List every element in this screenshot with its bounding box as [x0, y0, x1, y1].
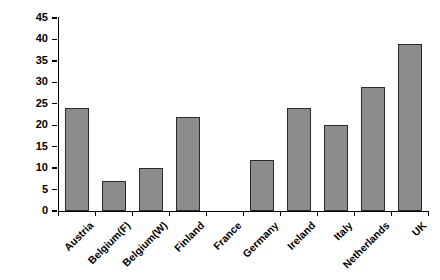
y-tick-label: 25: [0, 97, 48, 110]
y-tick-label: 0: [0, 204, 48, 217]
x-tick-mark: [317, 211, 318, 216]
x-tick-label: Ireland: [284, 219, 317, 252]
y-tick-label: 40: [0, 32, 48, 45]
x-tick-label: Austria: [61, 219, 95, 253]
bar: [139, 168, 163, 211]
y-tick-mark: [52, 189, 57, 190]
bar: [102, 181, 126, 211]
y-tick-mark: [52, 103, 57, 104]
y-tick-label: 10: [0, 161, 48, 174]
x-tick-mark: [391, 211, 392, 216]
y-tick-mark: [52, 39, 57, 40]
y-tick-mark: [52, 125, 57, 126]
bar: [176, 117, 200, 211]
y-tick-mark: [52, 60, 57, 61]
y-tick-label: 20: [0, 118, 48, 131]
x-tick-mark: [58, 211, 59, 216]
y-tick-mark: [52, 146, 57, 147]
x-tick-mark: [428, 211, 429, 216]
x-tick-mark: [132, 211, 133, 216]
y-tick-mark: [52, 210, 57, 211]
x-tick-mark: [169, 211, 170, 216]
bar: [398, 44, 422, 211]
y-tick-label: 30: [0, 75, 48, 88]
x-tick-mark: [95, 211, 96, 216]
x-tick-mark: [206, 211, 207, 216]
y-tick-label: 15: [0, 140, 48, 153]
x-tick-mark: [243, 211, 244, 216]
bar: [250, 160, 274, 211]
y-tick-mark: [52, 82, 57, 83]
x-tick-label: France: [210, 219, 243, 252]
x-tick-mark: [354, 211, 355, 216]
bar: [324, 125, 348, 211]
bar-series: [58, 18, 428, 211]
y-tick-mark: [52, 167, 57, 168]
y-tick-label: 5: [0, 183, 48, 196]
x-tick-mark: [280, 211, 281, 216]
x-tick-label: Italy: [331, 219, 354, 242]
y-tick-mark: [52, 17, 57, 18]
y-tick-label: 45: [0, 11, 48, 24]
bar: [361, 87, 385, 211]
y-tick-label: 35: [0, 54, 48, 67]
x-tick-label: UK: [409, 219, 428, 238]
bar: [287, 108, 311, 211]
x-tick-label: Finland: [171, 219, 206, 254]
bar: [65, 108, 89, 211]
bar-chart: Percentage 051015202530354045 AustriaBel…: [0, 0, 440, 280]
